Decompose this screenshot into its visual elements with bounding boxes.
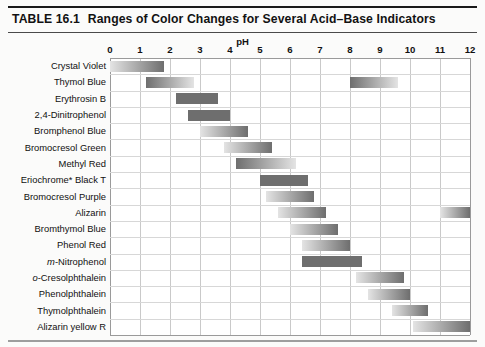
row-label: Bromocresol Purple: [24, 189, 106, 205]
indicator-bar: [200, 126, 248, 137]
gridline-h-8: [110, 188, 470, 189]
row-label: Bromphenol Blue: [34, 123, 106, 139]
gridline-v-12: [470, 58, 471, 335]
indicator-bar: [146, 77, 194, 88]
gridline-v-7: [320, 58, 321, 335]
row-label: Bromthymol Blue: [35, 221, 106, 237]
gridline-h-12: [110, 254, 470, 255]
gridline-v-1: [140, 58, 141, 335]
row-label: Thymol Blue: [54, 74, 106, 90]
indicator-bar: [188, 110, 230, 121]
indicator-bar: [413, 321, 470, 332]
x-tick-11: 11: [435, 44, 445, 55]
row-label: Eriochrome* Black T: [21, 172, 106, 188]
row-label: Methyl Red: [59, 156, 106, 172]
indicator-bar: [392, 305, 428, 316]
x-tick-9: 9: [377, 44, 382, 55]
row-label: Erythrosin B: [55, 91, 106, 107]
x-tick-8: 8: [347, 44, 352, 55]
gridline-h-2: [110, 91, 470, 92]
row-label: Thymolphthalein: [37, 303, 106, 319]
row-label: Alizarin yellow R: [37, 319, 106, 335]
gridline-h-9: [110, 205, 470, 206]
row-label: Phenolphthalein: [39, 286, 106, 302]
gridline-h-0: [110, 58, 470, 59]
row-label: 2,4-Dinitrophenol: [35, 107, 106, 123]
x-tick-7: 7: [317, 44, 322, 55]
gridline-h-11: [110, 237, 470, 238]
gridline-v-0: [110, 58, 111, 335]
indicator-bar: [350, 77, 398, 88]
x-tick-0: 0: [107, 44, 112, 55]
gridline-h-5: [110, 139, 470, 140]
gridline-v-5: [260, 58, 261, 335]
x-tick-10: 10: [405, 44, 416, 55]
indicator-bar: [260, 175, 308, 186]
row-label: Alizarin: [75, 205, 106, 221]
footer-rule: [8, 340, 477, 342]
x-tick-5: 5: [257, 44, 262, 55]
x-tick-6: 6: [287, 44, 292, 55]
x-tick-1: 1: [137, 44, 142, 55]
indicator-bar: [356, 272, 404, 283]
gridline-h-14: [110, 286, 470, 287]
table-figure: TABLE 16.1 Ranges of Color Changes for S…: [0, 0, 485, 347]
x-tick-12: 12: [465, 44, 476, 55]
row-label: Phenol Red: [57, 237, 106, 253]
gridline-v-8: [350, 58, 351, 335]
gridline-h-3: [110, 107, 470, 108]
x-tick-3: 3: [197, 44, 202, 55]
indicator-bar: [110, 61, 164, 72]
gridline-h-6: [110, 156, 470, 157]
x-axis-ticks: 0123456789101112: [110, 44, 470, 58]
gridline-h-15: [110, 302, 470, 303]
table-number-label: TABLE 16.1: [8, 12, 80, 26]
indicator-bar: [236, 158, 296, 169]
gridline-v-11: [440, 58, 441, 335]
row-label: m-Nitrophenol: [47, 254, 106, 270]
gridline-v-10: [410, 58, 411, 335]
title-rule-bottom: [8, 32, 477, 33]
indicator-bar: [224, 142, 272, 153]
page-title: Ranges of Color Changes for Several Acid…: [80, 12, 436, 26]
indicator-bar: [176, 93, 218, 104]
x-tick-4: 4: [227, 44, 232, 55]
gridline-h-17: [110, 335, 470, 336]
gridline-v-2: [170, 58, 171, 335]
indicator-bar: [368, 289, 410, 300]
gridline-v-4: [230, 58, 231, 335]
indicator-bar: [440, 207, 470, 218]
indicator-bar: [302, 256, 362, 267]
gridline-h-10: [110, 221, 470, 222]
gridline-h-13: [110, 270, 470, 271]
x-tick-2: 2: [167, 44, 172, 55]
table-title-bar: TABLE 16.1 Ranges of Color Changes for S…: [8, 8, 477, 30]
row-label: Bromocresol Green: [25, 140, 106, 156]
row-label: Crystal Violet: [51, 58, 106, 74]
gridline-h-4: [110, 123, 470, 124]
indicator-bar: [290, 224, 338, 235]
indicator-bar: [278, 207, 326, 218]
indicator-bar: [302, 240, 350, 251]
row-label: o-Cresolphthalein: [33, 270, 107, 286]
chart-plot-area: [110, 58, 470, 335]
indicator-bar: [266, 191, 314, 202]
gridline-h-7: [110, 172, 470, 173]
gridline-h-1: [110, 74, 470, 75]
gridline-h-16: [110, 319, 470, 320]
